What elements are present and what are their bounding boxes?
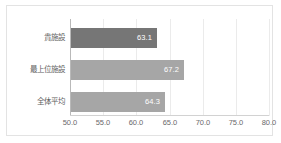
category-label-saijoui-shisetsu: 最上位施設 [9, 66, 65, 74]
x-axis: 50.0 55.0 60.0 65.0 70.0 75.0 80.0 [70, 119, 269, 133]
x-axis-baseline [70, 115, 269, 116]
bar-saijoui-shisetsu[interactable]: 67.2 [70, 60, 184, 80]
x-tick-label: 80.0 [262, 119, 277, 127]
category-label-kishisetsu: 貴施設 [9, 34, 65, 42]
gridline [236, 19, 237, 116]
gridline [203, 19, 204, 116]
x-tick-label: 65.0 [163, 119, 178, 127]
plot-area: 63.1 67.2 64.3 [70, 19, 269, 116]
x-tick-label: 60.0 [129, 119, 144, 127]
x-tick-label: 70.0 [196, 119, 211, 127]
gridline [269, 19, 270, 116]
bar-value-label: 63.1 [137, 34, 152, 42]
bar-value-label: 64.3 [145, 98, 160, 106]
category-axis: 貴施設 最上位施設 全体平均 [7, 19, 65, 116]
bar-value-label: 67.2 [164, 66, 179, 74]
x-tick-label: 50.0 [63, 119, 78, 127]
x-tick-label: 75.0 [229, 119, 244, 127]
chart-frame: 63.1 67.2 64.3 貴施設 最上位施設 全体平均 50.0 55.0 … [6, 5, 273, 136]
x-tick-label: 55.0 [96, 119, 111, 127]
bar-kishisetsu[interactable]: 63.1 [70, 28, 157, 48]
y-axis-line [70, 19, 71, 116]
bar-zentai-heikin[interactable]: 64.3 [70, 92, 165, 112]
category-label-zentai-heikin: 全体平均 [9, 98, 65, 106]
